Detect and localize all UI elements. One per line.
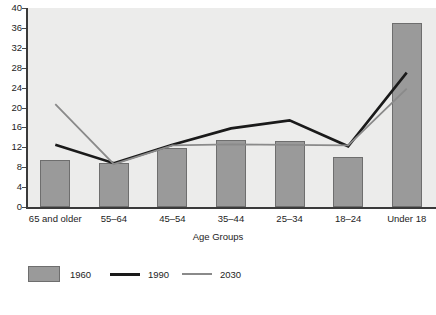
legend-label-2030: 2030 bbox=[220, 270, 241, 280]
bar bbox=[99, 163, 129, 207]
y-tick-label: 32 bbox=[0, 43, 22, 53]
y-tick-label: 8 bbox=[0, 162, 22, 172]
y-tick-label: 12 bbox=[0, 142, 22, 152]
x-tick-label: 65 and older bbox=[26, 214, 85, 224]
bar bbox=[392, 23, 422, 207]
chart-container: 0481216202428323640 65 and older55–6445–… bbox=[0, 0, 436, 315]
y-tick-label: 4 bbox=[0, 182, 22, 192]
x-axis-title: Age Groups bbox=[0, 231, 436, 242]
x-tick-label: 55–64 bbox=[85, 214, 144, 224]
x-tick-label: Under 18 bbox=[377, 214, 436, 224]
x-tick-label: 25–34 bbox=[260, 214, 319, 224]
y-tick-mark bbox=[22, 8, 26, 9]
y-tick-label: 20 bbox=[0, 103, 22, 113]
x-axis-line bbox=[26, 207, 436, 209]
legend-label-1990: 1990 bbox=[148, 270, 169, 280]
bar bbox=[157, 148, 187, 207]
chart-legend: 1960 1990 2030 bbox=[0, 262, 436, 292]
y-tick-label: 40 bbox=[0, 3, 22, 13]
y-tick-mark bbox=[22, 108, 26, 109]
bar bbox=[275, 141, 305, 207]
bar bbox=[216, 140, 246, 207]
x-tick-label: 35–44 bbox=[202, 214, 261, 224]
y-tick-mark bbox=[22, 88, 26, 89]
y-tick-mark bbox=[22, 167, 26, 168]
bar bbox=[40, 160, 70, 207]
y-tick-label: 24 bbox=[0, 83, 22, 93]
legend-line-1990 bbox=[110, 273, 140, 276]
y-tick-mark bbox=[22, 48, 26, 49]
legend-line-2030 bbox=[182, 273, 212, 275]
legend-swatch-1960 bbox=[28, 266, 60, 282]
x-tick-label: 45–54 bbox=[143, 214, 202, 224]
y-tick-mark bbox=[22, 187, 26, 188]
y-tick-label: 36 bbox=[0, 23, 22, 33]
y-tick-label: 0 bbox=[0, 202, 22, 212]
y-tick-mark bbox=[22, 147, 26, 148]
y-tick-mark bbox=[22, 68, 26, 69]
y-tick-mark bbox=[22, 28, 26, 29]
y-tick-mark bbox=[22, 127, 26, 128]
y-tick-label: 28 bbox=[0, 63, 22, 73]
bar bbox=[333, 157, 363, 207]
y-tick-mark bbox=[22, 207, 26, 208]
y-tick-label: 16 bbox=[0, 122, 22, 132]
y-axis-line bbox=[26, 8, 28, 208]
legend-label-1960: 1960 bbox=[70, 270, 91, 280]
x-tick-label: 18–24 bbox=[319, 214, 378, 224]
